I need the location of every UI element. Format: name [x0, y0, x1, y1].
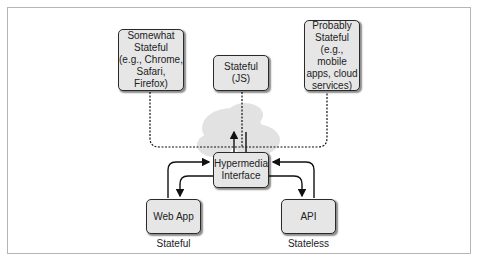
cloud-shape [197, 103, 280, 157]
node-label: Probably Stateful (e.g., mobile apps, cl… [305, 20, 359, 92]
node-label: Somewhat Stateful (e.g., Chrome, Safari,… [119, 30, 183, 90]
caption-api: Stateless [281, 238, 336, 249]
connectors [0, 0, 477, 261]
node-label: Web App [153, 211, 193, 223]
client-probably-stateful: Probably Stateful (e.g., mobile apps, cl… [304, 20, 360, 91]
client-somewhat-stateful: Somewhat Stateful (e.g., Chrome, Safari,… [118, 29, 184, 91]
client-stateful-js: Stateful (JS) [213, 55, 269, 91]
server-web-app: Web App [146, 199, 201, 234]
hypermedia-interface: Hypermedia Interface [213, 152, 269, 188]
node-label: Stateful (JS) [224, 61, 258, 85]
caption-web-app: Stateful [146, 238, 201, 249]
node-label: Hypermedia Interface [214, 158, 268, 182]
server-api: API [281, 199, 336, 234]
node-label: API [300, 211, 316, 223]
